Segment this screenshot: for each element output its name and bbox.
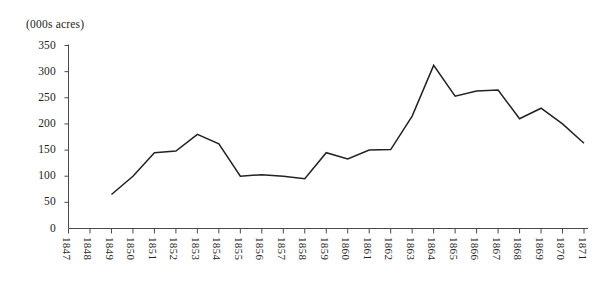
- x-tick-label: 1870: [555, 237, 567, 260]
- x-tick-label: 1854: [211, 237, 223, 260]
- x-tick-label: 1852: [168, 237, 180, 260]
- x-tick-label: 1865: [448, 237, 460, 260]
- x-tick-label: 1853: [190, 237, 202, 260]
- x-tick-label: 1848: [82, 237, 94, 260]
- x-tick-label: 1850: [125, 237, 137, 260]
- x-tick-label: 1855: [233, 237, 245, 260]
- x-tick-label: 1856: [254, 237, 266, 260]
- y-tick-label: 100: [22, 169, 56, 181]
- x-tick-label: 1869: [534, 237, 546, 260]
- chart-figure: (000s acres) 050100150200250300350 18471…: [0, 0, 600, 286]
- y-axis-ticks: [65, 46, 69, 203]
- y-tick-label: 300: [22, 65, 56, 77]
- x-tick-label: 1861: [362, 237, 374, 260]
- x-tick-label: 1847: [61, 237, 73, 260]
- y-tick-label: 200: [22, 117, 56, 129]
- x-tick-label: 1858: [297, 237, 309, 260]
- y-tick-label: 250: [22, 91, 56, 103]
- x-tick-label: 1864: [426, 237, 438, 260]
- x-axis-ticks: [69, 229, 585, 234]
- x-tick-label: 1868: [512, 237, 524, 260]
- x-tick-label: 1862: [383, 237, 395, 260]
- data-series: [111, 65, 584, 194]
- y-tick-label: 50: [22, 195, 56, 207]
- y-tick-label: 150: [22, 143, 56, 155]
- x-tick-label: 1859: [319, 237, 331, 260]
- x-tick-label: 1863: [405, 237, 417, 260]
- x-tick-label: 1849: [104, 237, 116, 260]
- y-tick-label: 0: [22, 222, 56, 234]
- x-tick-label: 1857: [276, 237, 288, 260]
- x-tick-label: 1860: [340, 237, 352, 260]
- x-tick-label: 1867: [491, 237, 503, 260]
- axes: [69, 45, 589, 229]
- y-tick-label: 350: [22, 39, 56, 51]
- x-tick-label: 1871: [577, 237, 589, 260]
- x-tick-label: 1851: [147, 237, 159, 260]
- x-tick-label: 1866: [469, 237, 481, 260]
